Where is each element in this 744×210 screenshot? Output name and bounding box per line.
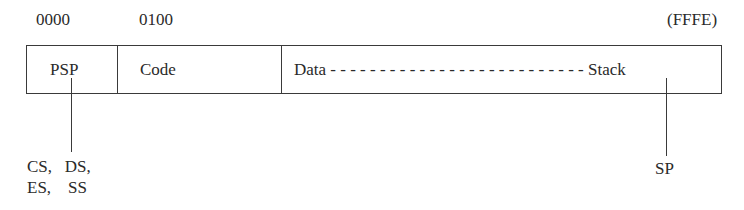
segment-psp: PSP [50,60,78,80]
sp-pointer-line [666,78,667,156]
stack-pointer-label: SP [655,159,674,179]
segment-divider-code-data [281,45,282,94]
segment-data-stack: Data - - - - - - - - - - - - - - - - - -… [294,60,626,80]
psp-registers-line1: CS, DS, [27,157,91,177]
psp-pointer-line [71,78,72,152]
address-0000: 0000 [36,10,70,30]
segment-code: Code [140,60,176,80]
address-0100: 0100 [139,10,173,30]
address-fffe: (FFFE) [667,10,717,30]
segment-divider-psp-code [117,45,118,94]
psp-registers-line2: ES, SS [27,178,87,198]
